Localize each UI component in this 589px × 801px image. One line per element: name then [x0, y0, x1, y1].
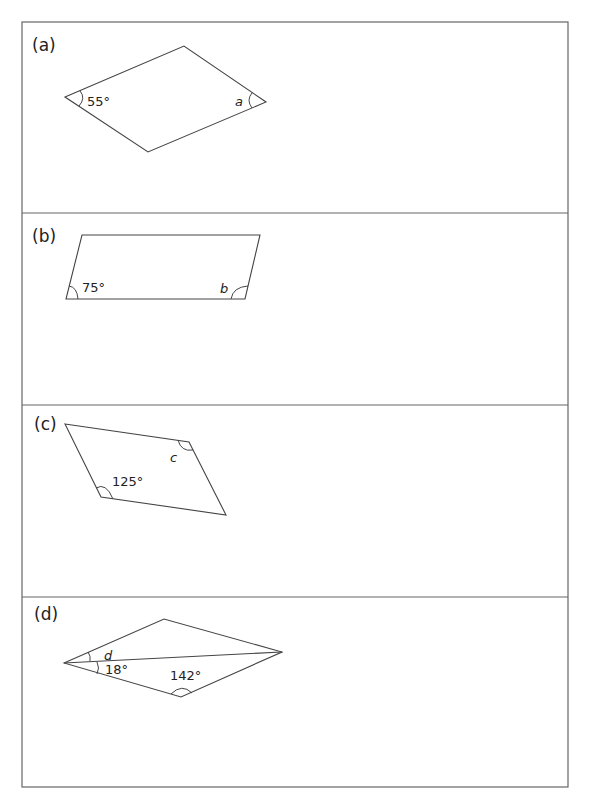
angle-label-142: 142°	[170, 668, 201, 683]
panel-b: (b) 75° b	[32, 226, 260, 299]
panel-label: (a)	[32, 35, 56, 55]
angle-label-125: 125°	[112, 474, 143, 489]
unknown-angle-b: b	[220, 281, 228, 296]
panel-d: (d) d 18° 142°	[34, 604, 282, 697]
diagonal-d	[64, 652, 282, 663]
angle-arc-a	[249, 93, 252, 108]
unknown-angle-a: a	[235, 94, 243, 109]
worksheet: (a) 55° a (b) 75° b (c) c 125° (d)	[0, 0, 589, 801]
angle-label-75: 75°	[82, 280, 105, 295]
panel-label: (c)	[34, 414, 57, 434]
unknown-angle-d: d	[104, 648, 113, 663]
panel-c: (c) c 125°	[34, 414, 226, 515]
panel-a: (a) 55° a	[32, 35, 266, 152]
angle-label-55: 55°	[87, 94, 110, 109]
unknown-angle-c: c	[170, 450, 177, 465]
angle-label-18: 18°	[105, 662, 128, 677]
panel-label: (b)	[32, 226, 56, 246]
panel-label: (d)	[34, 604, 58, 624]
worksheet-canvas: (a) 55° a (b) 75° b (c) c 125° (d)	[0, 0, 589, 801]
angle-arc-55	[79, 91, 83, 106]
angle-arc-d	[88, 652, 90, 661]
parallelogram-c	[65, 424, 226, 515]
angle-arc-75	[69, 286, 78, 299]
